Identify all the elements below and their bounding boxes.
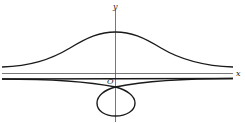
- upper-branch-curve: [2, 32, 233, 67]
- curve-diagram: y x O: [0, 0, 245, 123]
- loop-curve: [97, 87, 135, 116]
- y-axis-label: y: [112, 2, 118, 11]
- x-axis-label: x: [236, 69, 241, 78]
- origin-label: O: [107, 77, 114, 86]
- lower-branch-curve: [2, 79, 233, 88]
